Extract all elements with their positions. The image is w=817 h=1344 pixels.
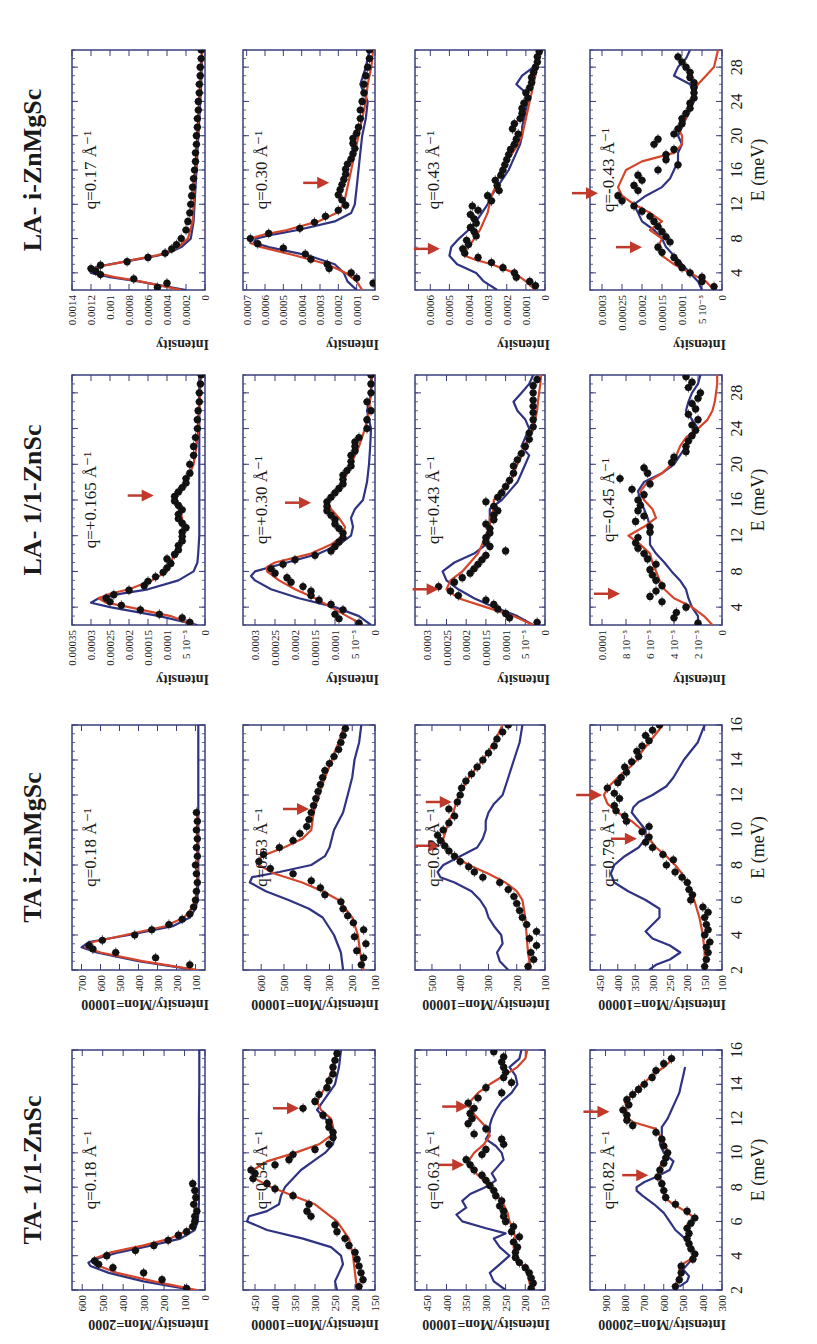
y-tick-label: 0.0005 [443,295,455,326]
chart-panel-la-11-znsc-q045: 48121620242802 10⁻⁵4 10⁻⁵6 10⁻⁵8 10⁻⁵0.0… [590,375,722,625]
y-tick-label: 200 [681,975,693,992]
y-tick-label: 800 [619,1295,631,1312]
y-tick-label: 0.0001 [596,630,608,660]
y-tick-label: 0 [539,630,551,636]
q-value-annotation: q=0.53 Å⁻¹ [252,808,271,886]
figure-rotated-container: TA- 1/1-ZnSc TA i-ZnMgSc LA- 1/1-ZnSc LA… [0,0,817,1344]
y-tick-label: 4 10⁻⁵ [668,630,680,659]
y-axis-label: Intensity [326,671,379,687]
y-tick-label: 400 [612,975,624,992]
y-axis-label: Intensity [673,336,726,352]
y-tick-label: 0.0005 [277,295,289,326]
y-axis-label: Intensity/Mon=2000 [88,1316,209,1332]
x-tick-label: 2 [728,1286,745,1294]
y-tick-label: 0 [199,630,211,636]
y-tick-label: 0.0002 [332,295,344,325]
y-tick-label: 600 [255,975,267,992]
y-tick-label: 2 10⁻⁵ [692,630,704,659]
x-tick-label: 6 [728,896,745,904]
y-tick-label: 0.0002 [180,295,192,325]
x-tick-label: 24 [728,93,745,109]
y-tick-label: 0.0012 [85,295,97,325]
y-axis-label: Intensity/Mon=10000 [251,996,379,1012]
y-tick-label: 350 [460,1295,472,1312]
x-tick-label: 6 [728,1217,745,1225]
y-tick-label: 0.0006 [424,295,436,326]
x-tick-label: 16 [728,717,745,733]
y-tick-label: 100 [539,975,551,992]
y-tick-label: 300 [716,1295,728,1312]
y-tick-label: 0.0003 [314,295,326,326]
y-tick-label: 0.0002 [289,630,301,660]
y-axis-label: Intensity/Mon=10000 [251,1316,379,1332]
chart-panel-la-11-znsc-q0165: 05 10⁻⁵0.00010.000150.00020.000250.00030… [72,375,205,625]
x-tick-label: 16 [728,492,745,508]
y-tick-label: 0.0003 [85,630,97,661]
x-tick-label: 8 [728,235,745,243]
x-tick-label: 4 [728,603,745,611]
y-tick-label: 0.0002 [636,295,648,325]
q-value-annotation: q=0.18 Å⁻¹ [81,1131,100,1209]
x-tick-label: 8 [728,567,745,575]
y-tick-label: 0.0001 [676,295,688,325]
x-tick-label: 20 [728,456,745,472]
y-tick-label: 5 10⁻⁵ [349,630,361,659]
chart-panel-la-11-znsc-q043: 05 10⁻⁵0.00010.000150.00020.000250.0003q… [415,375,545,625]
x-tick-label: 28 [728,59,745,75]
y-axis-label: Intensity [673,671,726,687]
q-value-annotation: q=0.17 Å⁻¹ [81,131,100,209]
y-axis-label: Intensity/Mon=20000 [598,1316,726,1332]
y-tick-label: 600 [76,1295,88,1312]
y-axis-label: Intensity [156,671,209,687]
y-tick-label: 0.0002 [460,630,472,660]
x-tick-label: 4 [728,269,745,277]
y-tick-label: 150 [369,1295,381,1312]
x-tick-label: 8 [728,861,745,869]
y-tick-label: 0.0007 [241,295,253,326]
y-tick-label: 300 [480,1295,492,1312]
q-value-annotation: q=0.18 Å⁻¹ [81,808,100,886]
chart-panel-ta-i-znmgsc-q053: 100200300400500600q=0.53 Å⁻¹Intensity/Mo… [243,725,375,970]
y-tick-label: 350 [629,975,641,992]
chart-panel-la-i-znmgsc-q017: 00.00020.00040.00060.00080.0010.00120.00… [72,50,205,290]
x-tick-label: 10 [728,1145,745,1161]
y-tick-label: 0.0006 [142,295,154,326]
y-tick-label: 0 [199,1295,211,1301]
y-tick-label: 0.0001 [329,630,341,660]
y-tick-label: 0.0001 [351,295,363,325]
q-value-annotation: q=0.54 Å⁻¹ [252,1131,271,1209]
y-tick-label: 600 [95,975,107,992]
q-value-annotation: q=+0.43 Å⁻¹ [424,456,443,544]
y-tick-label: 700 [76,975,88,992]
x-tick-label: 8 [728,1183,745,1191]
y-tick-label: 0 [539,295,551,301]
y-tick-label: 600 [658,1295,670,1312]
y-tick-label: 0.00035 [66,630,78,666]
y-tick-label: 0.0014 [66,295,78,326]
y-axis-label: Intensity/Mon=10000 [598,996,726,1012]
column-title-la-11-znsc: LA- 1/1-ZnSc [18,375,58,625]
y-tick-label: 500 [114,975,126,992]
x-tick-label: 12 [728,787,745,803]
chart-panel-ta-i-znmgsc-q079: 246810121416100150200250300350400450q=0.… [590,725,722,970]
y-tick-label: 0 [369,630,381,636]
y-tick-label: 0.0002 [123,630,135,660]
y-tick-label: 100 [179,1295,191,1312]
y-tick-label: 0.0003 [249,630,261,661]
y-tick-label: 200 [346,975,358,992]
q-value-annotation: q=0.30 Å⁻¹ [252,131,271,209]
y-tick-label: 150 [539,1295,551,1312]
x-tick-label: 28 [728,385,745,401]
y-tick-label: 300 [152,975,164,992]
y-tick-label: 0.0001 [161,630,173,660]
chart-panel-ta-i-znmgsc-q018: 100200300400500600700q=0.18 Å⁻¹Intensity… [72,725,205,970]
y-tick-label: 0 [716,630,728,636]
y-tick-label: 0.00015 [142,630,154,666]
y-tick-label: 8 10⁻⁵ [620,630,632,659]
y-tick-label: 0.00015 [480,630,492,666]
column-title-ta-11-znsc: TA- 1/1-ZnSc [18,1050,58,1290]
q-value-annotation: q=+0.30 Å⁻¹ [252,456,271,544]
y-tick-label: 0.0004 [161,295,173,326]
q-value-annotation: q=0.63 Å⁻¹ [424,1131,443,1209]
y-axis-label: Intensity [156,336,209,352]
